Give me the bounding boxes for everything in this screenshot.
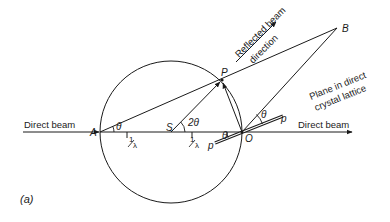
theta-O-label: θ	[222, 130, 228, 141]
point-P-dot	[220, 78, 223, 81]
figure-caption: (a)	[20, 193, 34, 205]
point-O-dot	[240, 130, 243, 133]
svg-text:λ: λ	[195, 141, 199, 150]
svg-text:λ: λ	[133, 141, 137, 150]
angle-arc-A	[113, 126, 114, 132]
plane-p-right-label: p	[280, 113, 287, 124]
angle-arc-S	[181, 122, 185, 132]
ewald-diagram: Direct beam Direct beam Reflected beam d…	[0, 0, 390, 222]
point-A-label: A	[89, 127, 97, 138]
two-theta-S-label: 2θ	[187, 117, 200, 128]
plane-p-left-label: p	[207, 140, 214, 151]
point-S-label: S	[166, 122, 173, 133]
direct-beam-left-label: Direct beam	[24, 119, 75, 130]
point-B-label: B	[342, 23, 349, 34]
direct-beam-right-label: Direct beam	[298, 119, 349, 130]
line-O-B	[242, 28, 337, 132]
point-P-label: P	[221, 67, 228, 78]
theta-p-label: θ	[261, 109, 267, 120]
point-O-label: O	[245, 133, 253, 144]
inv-lambda-label-2: 1 λ	[189, 135, 199, 150]
theta-A-label: θ	[116, 121, 122, 132]
inv-lambda-label-1: 1 λ	[128, 135, 137, 150]
line-A-B	[100, 28, 337, 132]
line-O-P	[223, 83, 242, 132]
